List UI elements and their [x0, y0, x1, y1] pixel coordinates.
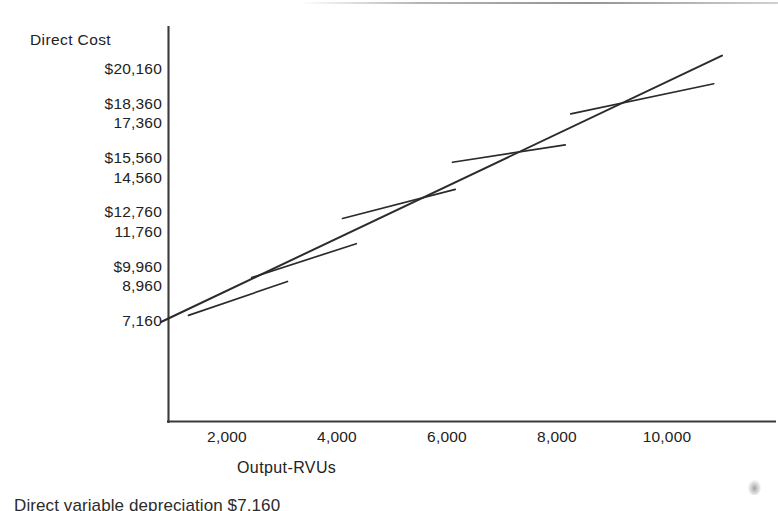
x-tick-label: 2,000: [207, 428, 247, 446]
cost-line: [161, 56, 722, 322]
x-tick-label: 4,000: [317, 428, 357, 446]
axis-lines: [168, 27, 775, 422]
tangent-line: [189, 281, 288, 315]
x-tick-label: 6,000: [427, 428, 467, 446]
tangent-line: [453, 145, 566, 162]
x-axis-title: Output-RVUs: [237, 459, 336, 477]
tangent-line: [252, 244, 357, 278]
x-axis-tick-labels: 2,0004,0006,0008,00010,000: [0, 428, 778, 452]
x-tick-label: 10,000: [643, 428, 692, 446]
tangent-line: [571, 84, 714, 114]
bottom-caption-clipped: Direct variable depreciation $7,160: [14, 496, 774, 511]
figure-container: Direct Cost $20,160$18,36017,360$15,5601…: [0, 0, 778, 511]
data-line-group: [161, 56, 722, 322]
x-tick-label: 8,000: [537, 428, 577, 446]
tangent-line: [343, 189, 456, 218]
